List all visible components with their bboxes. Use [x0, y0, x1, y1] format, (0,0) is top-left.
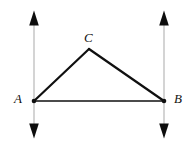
arrowhead-down-icon-B	[159, 124, 169, 139]
geometry-figure: A B C	[0, 0, 194, 146]
arrowhead-up-icon-A	[29, 11, 39, 26]
vertex-dot-A	[32, 99, 37, 104]
figure-canvas	[0, 0, 194, 146]
arrowhead-down-icon-A	[29, 124, 39, 139]
segment-AC	[34, 49, 89, 101]
segment-CB	[89, 49, 164, 101]
vertical-line-through-A	[29, 11, 39, 139]
arrowhead-up-icon-B	[159, 11, 169, 26]
vertical-line-through-B	[159, 11, 169, 139]
vertex-label-B: B	[174, 92, 182, 105]
vertex-dot-B	[162, 99, 167, 104]
vertex-label-A: A	[14, 92, 22, 105]
triangle-ABC	[34, 49, 164, 101]
vertex-label-C: C	[84, 31, 93, 44]
